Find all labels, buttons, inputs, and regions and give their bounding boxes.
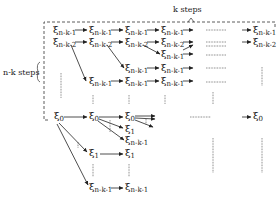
node-o2: ξ1 [89, 148, 99, 161]
node-subscript: 0 [131, 115, 135, 123]
node-subscript: n-k-1 [95, 29, 113, 37]
node-subscript: n-k-1 [131, 29, 149, 37]
node-subscript: n-k-1 [259, 29, 277, 37]
node-r2c1: ξn-k-2 [53, 37, 76, 50]
node-n3b: ξn-k-1 [125, 182, 148, 195]
node-subscript: 1 [95, 152, 99, 160]
node-subscript: 0 [259, 115, 263, 123]
node-n2: ξn-k-1 [89, 182, 112, 195]
node-subscript: n-k-2 [59, 41, 77, 49]
node-r2c6: ξn-k-2 [253, 37, 276, 50]
node-subscript: n-k-1 [131, 67, 149, 75]
node-r5c4: ξn-k-1 [161, 76, 184, 89]
node-subscript: n-k-2 [259, 41, 277, 49]
node-r5c2: ξn-k-1 [89, 76, 112, 89]
node-subscript: n-k-1 [59, 29, 77, 37]
node-r5c3: ξn-k-1 [125, 76, 148, 89]
node-subscript: n-k-1 [95, 186, 113, 194]
node-subscript: n-k-1 [131, 186, 149, 194]
node-subscript: n-k-1 [131, 139, 149, 147]
node-subscript: n-k-1 [95, 80, 113, 88]
node-subscript: n-k-1 [167, 67, 185, 75]
node-o3b: ξ1 [125, 148, 135, 161]
node-subscript: n-k-2 [95, 41, 113, 49]
node-subscript: 1 [131, 152, 135, 160]
node-z1: ξ0 [54, 111, 64, 124]
n-k-steps-label: n-k steps [3, 68, 40, 77]
node-r3c4: ξn-k-1 [161, 49, 184, 62]
node-z2: ξ0 [89, 111, 99, 124]
node-z6: ξ0 [253, 111, 263, 124]
node-subscript: 0 [60, 115, 64, 123]
node-subscript: n-k-1 [167, 80, 185, 88]
node-subscript: n-k-1 [131, 80, 149, 88]
node-subscript: 0 [95, 115, 99, 123]
node-subscript: n-k-2 [167, 41, 185, 49]
node-r2c2: ξn-k-2 [89, 37, 112, 50]
node-subscript: n-k-2 [131, 41, 149, 49]
node-subscript: n-k-1 [167, 53, 185, 61]
node-subscript: n-k-1 [167, 29, 185, 37]
node-r2c3: ξn-k-2 [125, 37, 148, 50]
k-steps-label: k steps [173, 5, 202, 14]
